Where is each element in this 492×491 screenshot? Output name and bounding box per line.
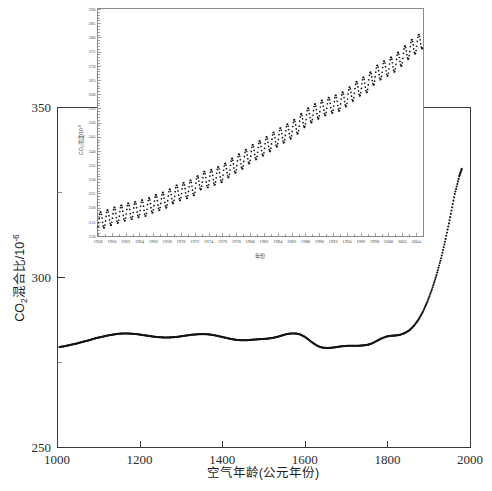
inset-x-tick-1968: 1968 xyxy=(163,239,173,244)
inset-plot-area: 1958196019621964196619681970197219741976… xyxy=(89,7,424,244)
inset-y-tick-340: 340 xyxy=(89,149,97,154)
main-y-tick-250: 250 xyxy=(32,440,52,455)
inset-x-tick-1994: 1994 xyxy=(342,239,352,244)
inset-y-tick-320: 320 xyxy=(89,205,97,210)
inset-y-tick-labels: 3103153203253303353403453503553603653703… xyxy=(89,7,97,239)
main-y-tick-labels: 250300350 xyxy=(32,100,52,455)
inset-y-axis-label: CO2浓度/10-6 xyxy=(77,125,85,155)
co2-chart-svg: 100012001400160018002000 250300350 空气年龄(… xyxy=(0,0,492,491)
inset-x-tick-2000: 2000 xyxy=(384,239,394,244)
inset-x-tick-1972: 1972 xyxy=(190,239,200,244)
inset-x-tick-1998: 1998 xyxy=(370,239,380,244)
inset-x-tick-2002: 2002 xyxy=(398,239,408,244)
inset-x-tick-1984: 1984 xyxy=(273,239,283,244)
co2-figure: 100012001400160018002000 250300350 空气年龄(… xyxy=(0,0,492,491)
main-x-tick-2000: 2000 xyxy=(457,452,483,467)
main-y-tick-300: 300 xyxy=(32,270,52,285)
inset-x-tick-1980: 1980 xyxy=(246,239,256,244)
inset-x-tick-1976: 1976 xyxy=(218,239,228,244)
inset-y-label-sup: -6 xyxy=(78,125,82,128)
main-x-tick-1600: 1600 xyxy=(292,452,318,467)
main-x-tick-1800: 1800 xyxy=(374,452,400,467)
inset-x-tick-1958: 1958 xyxy=(93,239,103,244)
inset-y-tick-370: 370 xyxy=(89,64,97,69)
inset-x-axis-label: 年份 xyxy=(255,252,266,260)
inset-y-tick-355: 355 xyxy=(89,106,97,111)
inset-x-tick-1986: 1986 xyxy=(287,239,297,244)
inset-x-tick-1974: 1974 xyxy=(204,239,214,244)
inset-y-tick-375: 375 xyxy=(89,49,97,54)
inset-y-tick-360: 360 xyxy=(89,92,97,97)
inset-x-tick-1996: 1996 xyxy=(356,239,366,244)
svg-text:CO2混合比/10-6: CO2混合比/10-6 xyxy=(11,234,29,322)
main-y-label-mid: 混合比/10 xyxy=(12,242,27,298)
inset-x-tick-2004: 2004 xyxy=(411,239,421,244)
main-y-axis-label: CO2混合比/10-6 xyxy=(11,234,29,322)
inset-y-tick-385: 385 xyxy=(89,21,97,26)
inset-x-tick-1964: 1964 xyxy=(135,239,145,244)
inset-x-tick-labels: 1958196019621964196619681970197219741976… xyxy=(93,239,421,244)
inset-x-tick-1982: 1982 xyxy=(259,239,269,244)
inset-frame xyxy=(98,9,424,237)
inset-x-tick-1978: 1978 xyxy=(232,239,242,244)
inset-x-tick-1988: 1988 xyxy=(301,239,311,244)
inset-y-tick-315: 315 xyxy=(89,220,97,225)
inset-y-tick-350: 350 xyxy=(89,120,97,125)
inset-y-tick-390: 390 xyxy=(89,7,97,12)
inset-x-tick-1962: 1962 xyxy=(121,239,131,244)
inset-y-tick-330: 330 xyxy=(89,177,97,182)
main-x-tick-1200: 1200 xyxy=(127,452,153,467)
main-x-axis-label: 空气年龄(公元年份) xyxy=(207,465,319,480)
inset-y-tick-310: 310 xyxy=(89,234,97,239)
main-x-tick-1400: 1400 xyxy=(209,452,235,467)
inset-y-label-mid: 浓度/10 xyxy=(77,128,85,145)
main-x-tick-labels: 100012001400160018002000 xyxy=(44,452,483,467)
inset-y-tick-380: 380 xyxy=(89,35,97,40)
inset-y-tick-345: 345 xyxy=(89,134,97,139)
inset-x-tick-1966: 1966 xyxy=(149,239,159,244)
inset-y-tick-325: 325 xyxy=(89,191,97,196)
main-y-label-sup: -6 xyxy=(11,234,21,242)
svg-text:CO2浓度/10-6: CO2浓度/10-6 xyxy=(77,125,85,155)
inset-y-tick-335: 335 xyxy=(89,163,97,168)
inset-x-tick-1960: 1960 xyxy=(107,239,117,244)
inset-y-label-prefix: CO xyxy=(78,147,84,155)
main-y-label-prefix: CO xyxy=(13,303,27,322)
inset-y-tick-365: 365 xyxy=(89,78,97,83)
inset-x-tick-1970: 1970 xyxy=(176,239,186,244)
inset-x-tick-1992: 1992 xyxy=(329,239,339,244)
inset-x-tick-1990: 1990 xyxy=(315,239,325,244)
main-y-tick-350: 350 xyxy=(32,100,52,115)
